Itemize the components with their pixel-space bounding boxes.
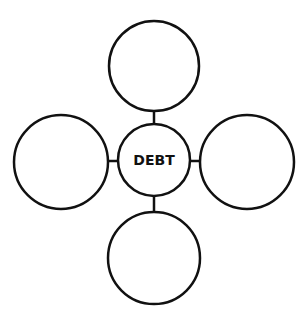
center-label: DEBT <box>133 152 175 168</box>
node-top <box>109 21 199 111</box>
node-right <box>200 115 294 209</box>
node-left <box>14 115 108 209</box>
node-bottom <box>108 212 200 304</box>
concept-web-diagram: DEBT <box>0 0 308 317</box>
